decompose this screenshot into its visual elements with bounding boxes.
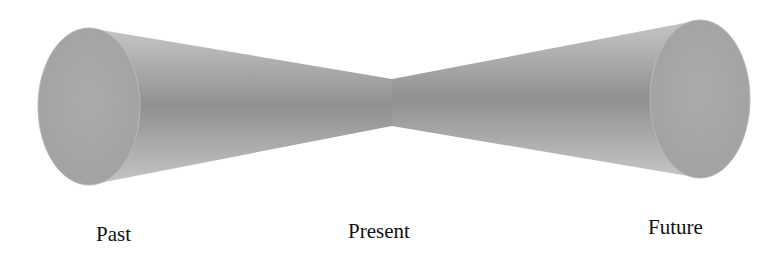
label-future: Future: [648, 215, 703, 240]
label-past: Past: [96, 222, 131, 247]
past-cone-face: [38, 28, 140, 185]
past-cone: [38, 28, 392, 185]
label-present: Present: [348, 219, 410, 244]
future-cone: [392, 20, 750, 178]
future-cone-face: [650, 20, 750, 178]
